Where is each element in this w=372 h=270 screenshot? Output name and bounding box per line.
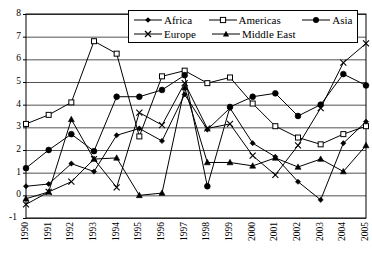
legend-marker-filled-circle	[301, 14, 331, 26]
y-tick-label--1: -1	[1, 213, 17, 223]
x-tick-label-1993: 1993	[89, 222, 99, 241]
series-marker-asia-1998	[204, 183, 210, 189]
legend-item-americas[interactable]: Americas	[208, 14, 302, 26]
legend-label: Asia	[331, 14, 352, 26]
x-tick-label-1992: 1992	[66, 222, 76, 241]
series-marker-asia-2004	[340, 71, 346, 77]
x-tick-label-1999: 1999	[225, 222, 235, 241]
x-tick-label-2002: 2002	[293, 222, 303, 241]
legend-item-europe[interactable]: Europe	[133, 28, 211, 40]
series-marker-asia-2001	[272, 90, 278, 96]
series-marker-americas-1995	[137, 134, 142, 139]
series-marker-americas-1999	[228, 75, 233, 80]
y-tick-label-4: 4	[5, 100, 21, 110]
legend-item-africa[interactable]: Africa	[133, 14, 208, 26]
series-marker-asia-1993	[91, 148, 97, 154]
series-marker-asia-1990	[23, 165, 29, 171]
x-tick-label-1995: 1995	[134, 222, 144, 241]
y-tick-label-2: 2	[5, 145, 21, 155]
series-marker-asia-1991	[46, 147, 52, 153]
series-marker-americas-2005	[364, 124, 369, 129]
series-marker-asia-1992	[68, 131, 74, 137]
legend-label: Europe	[163, 28, 196, 40]
x-tick-label-1997: 1997	[180, 222, 190, 241]
series-marker-americas-1993	[92, 39, 97, 44]
x-tick-label-2003: 2003	[316, 222, 326, 241]
series-marker-asia-1994	[114, 94, 120, 100]
y-tick-label-6: 6	[5, 54, 21, 64]
x-tick-label-2004: 2004	[338, 222, 348, 241]
legend-marker-filled-triangle	[211, 28, 241, 40]
series-marker-asia-1997	[182, 72, 188, 78]
series-marker-asia-2002	[295, 113, 301, 119]
series-marker-asia-1996	[159, 87, 165, 93]
legend-label: Africa	[163, 14, 192, 26]
series-marker-americas-2000	[250, 101, 255, 106]
series-marker-americas-1996	[160, 74, 165, 79]
legend-label: Americas	[238, 14, 281, 26]
legend-marker-open-square	[208, 14, 238, 26]
series-marker-americas-2004	[341, 132, 346, 137]
series-marker-americas-1991	[46, 112, 51, 117]
series-marker-asia-1999	[227, 104, 233, 110]
y-tick-label-1: 1	[5, 168, 21, 178]
y-tick-label-0: 0	[5, 190, 21, 200]
x-tick-label-2000: 2000	[248, 222, 258, 241]
legend-label: Middle East	[241, 28, 295, 40]
series-marker-americas-2001	[273, 124, 278, 129]
x-tick-label-1994: 1994	[112, 222, 122, 241]
series-marker-americas-2003	[318, 142, 323, 147]
series-marker-asia-2000	[250, 94, 256, 100]
series-marker-americas-1998	[205, 81, 210, 86]
y-tick-label-7: 7	[5, 32, 21, 42]
x-tick-label-1991: 1991	[44, 222, 54, 241]
plot-border	[26, 14, 366, 218]
x-tick-label-1990: 1990	[21, 222, 31, 241]
x-tick-label-2001: 2001	[270, 222, 280, 241]
series-marker-asia-2005	[363, 83, 369, 89]
x-tick-label-2005: 2005	[361, 222, 371, 241]
y-tick-label-8: 8	[5, 9, 21, 19]
series-marker-americas-2002	[296, 135, 301, 140]
series-marker-asia-1995	[136, 94, 142, 100]
legend-item-middle-east[interactable]: Middle East	[211, 28, 331, 40]
legend-marker-diamond-small	[133, 14, 163, 26]
legend-item-asia[interactable]: Asia	[301, 14, 353, 26]
legend-marker-cross	[133, 28, 163, 40]
y-tick-label-3: 3	[5, 122, 21, 132]
legend-row-1: AfricaAmericasAsia	[133, 13, 353, 27]
x-tick-label-1998: 1998	[202, 222, 212, 241]
series-marker-americas-1992	[69, 100, 74, 105]
x-tick-label-1996: 1996	[157, 222, 167, 241]
series-marker-americas-1990	[24, 121, 29, 126]
series-marker-americas-1994	[114, 51, 119, 56]
y-tick-label-5: 5	[5, 77, 21, 87]
legend-row-2: EuropeMiddle East	[133, 27, 353, 41]
chart-legend: AfricaAmericasAsiaEuropeMiddle East	[128, 10, 358, 43]
line-chart: -1012345678 1990199119921993199419951996…	[0, 0, 372, 270]
